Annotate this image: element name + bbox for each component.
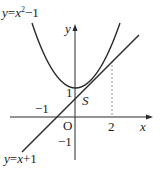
y-axis-arrow-icon — [73, 24, 78, 31]
tick-label-x-2: 2 — [108, 119, 115, 134]
tick-label-y-1: 1 — [66, 85, 73, 100]
line-y-x-plus-1 — [22, 35, 139, 152]
graph-canvas: y=x2−1 y=x+1 y x O S −1 2 1 −1 — [0, 0, 160, 171]
region-label: S — [82, 93, 89, 108]
curve-label: y=x2−1 — [0, 5, 39, 20]
line-label: y=x+1 — [2, 151, 37, 166]
origin-label: O — [63, 118, 72, 133]
x-axis-arrow-icon — [146, 115, 153, 120]
tick-label-y-neg1: −1 — [58, 134, 72, 149]
tick-label-x-neg1: −1 — [35, 101, 49, 116]
x-axis-label: x — [139, 119, 146, 134]
y-axis-label: y — [63, 21, 71, 36]
parabola-curve — [32, 23, 120, 88]
